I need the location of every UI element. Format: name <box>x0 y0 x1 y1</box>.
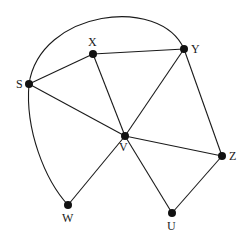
edge-v-w <box>68 136 125 205</box>
edge-x-v <box>93 54 125 136</box>
node-label-x: X <box>88 35 97 49</box>
edge-y-z <box>184 49 222 156</box>
node-s <box>25 80 33 88</box>
node-w <box>64 201 72 209</box>
edge-v-z <box>125 136 222 156</box>
node-label-w: W <box>62 211 74 225</box>
node-label-z: Z <box>229 149 236 163</box>
edge-x-y <box>93 49 184 54</box>
node-y <box>180 45 188 53</box>
node-label-y: Y <box>191 42 200 56</box>
node-z <box>218 152 226 160</box>
node-label-v: V <box>119 140 128 154</box>
edge-s-v <box>29 84 125 136</box>
node-x <box>89 50 97 58</box>
edge-v-u <box>125 136 172 213</box>
node-u <box>168 209 176 217</box>
nodes-group <box>25 45 226 217</box>
graph-diagram: SXYVZWU <box>0 0 249 241</box>
node-v <box>121 132 129 140</box>
edge-z-u <box>172 156 222 213</box>
node-label-s: S <box>16 77 23 91</box>
edge-y-v <box>125 49 184 136</box>
node-label-u: U <box>167 219 176 233</box>
